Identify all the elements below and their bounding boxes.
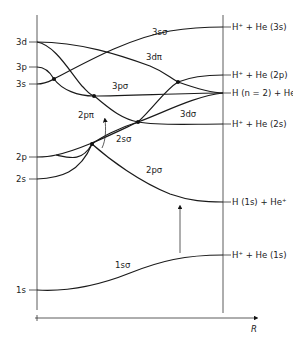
curve-3d-pi — [37, 42, 223, 93]
crossing-dot — [92, 94, 96, 98]
right-level-h1s-he: H (1s) + He⁺ — [232, 196, 287, 207]
rotational-coupling-arrow-icon — [102, 120, 106, 148]
curve-3p-sigma — [37, 67, 223, 96]
right-level-hn2-he: H (n = 2) + He⁺ — [232, 87, 293, 98]
right-level-h-he-2s: H⁺ + He (2s) — [232, 118, 287, 129]
crossing-dot — [90, 142, 94, 146]
right-level-h-he-2p: H⁺ + He (2p) — [232, 69, 287, 80]
orbital-label-2p-pi: 2pπ — [78, 109, 94, 120]
crossing-dot — [136, 120, 140, 124]
crossing-dot — [176, 80, 180, 84]
r-axis-label: R — [251, 323, 257, 334]
orbital-label-3p-sigma: 3pσ — [112, 80, 129, 91]
left-level-1s: 1s — [16, 284, 26, 295]
correlation-diagram: R 3d 3p 3s 2p 2s 1s H⁺ + He (3s) H⁺ + He… — [0, 0, 293, 346]
orbital-label-1s-sigma: 1sσ — [115, 259, 131, 270]
curve-3s-sigma — [37, 27, 223, 84]
orbital-label-3d-sigma: 3dσ — [180, 108, 197, 119]
crossing-dot — [52, 77, 56, 81]
left-level-3s: 3s — [16, 78, 26, 89]
right-level-h-he-1s: H⁺ + He (1s) — [232, 249, 287, 260]
left-level-2p: 2p — [16, 151, 27, 162]
orbital-label-2p-sigma: 2pσ — [146, 164, 163, 175]
right-level-h-he-3s: H⁺ + He (3s) — [232, 21, 287, 32]
left-level-3p: 3p — [16, 61, 27, 72]
orbital-label-3s-sigma: 3sσ — [152, 26, 168, 37]
left-level-3d: 3d — [16, 36, 27, 47]
left-level-2s: 2s — [16, 173, 26, 184]
orbital-label-3d-pi: 3dπ — [146, 51, 162, 62]
curve-2p-sigma — [56, 144, 223, 202]
orbital-label-2s-sigma: 2sσ — [116, 133, 132, 144]
